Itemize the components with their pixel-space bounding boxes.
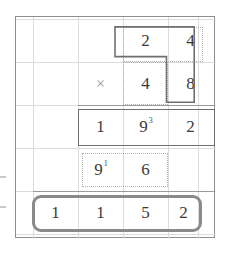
digit-r5c3: 5: [141, 204, 150, 221]
digit-r4c3: 6: [141, 161, 150, 178]
carry-r3c3: 3: [149, 117, 153, 125]
digit-r2c4: 8: [186, 75, 195, 92]
edge-artifact-upper: [0, 176, 6, 178]
gridline-horizontal-6: [16, 234, 216, 235]
cell-r3c3: 93: [123, 105, 168, 148]
cell-r3c2: 1: [78, 105, 123, 148]
cell-r3c4: 2: [168, 105, 213, 148]
cell-r2c3: 4: [123, 62, 168, 105]
edge-artifact-lower: [0, 206, 6, 208]
carry-r4c2: 1: [104, 160, 108, 168]
cell-r1c3: 2: [123, 19, 168, 62]
digit-r3c4: 2: [186, 118, 195, 135]
digit-r2c3: 4: [141, 75, 150, 92]
digit-r5c1: 1: [51, 204, 60, 221]
cell-r4c2: 91: [78, 148, 123, 191]
digit-r5c2: 1: [96, 204, 105, 221]
digit-r4c2: 9: [94, 161, 103, 178]
cell-r1c4: 4: [168, 19, 213, 62]
cell-r5c1: 1: [33, 191, 78, 234]
digit-r1c3: 2: [141, 32, 150, 49]
cell-r5c2: 1: [78, 191, 123, 234]
multiplication-operator: ×: [78, 62, 123, 105]
cell-r2c4: 8: [168, 62, 213, 105]
cell-r4c3: 6: [123, 148, 168, 191]
digit-r5c4: 2: [179, 204, 188, 221]
cell-r5c4: 2: [161, 191, 206, 234]
worksheet-frame: 2 4 × 4 8 1 93 2 91 6 1 1: [15, 16, 215, 238]
digit-r3c2: 1: [96, 118, 105, 135]
digit-r3c3: 9: [139, 118, 148, 135]
operator-glyph: ×: [96, 75, 105, 93]
digit-r1c4: 4: [186, 32, 195, 49]
